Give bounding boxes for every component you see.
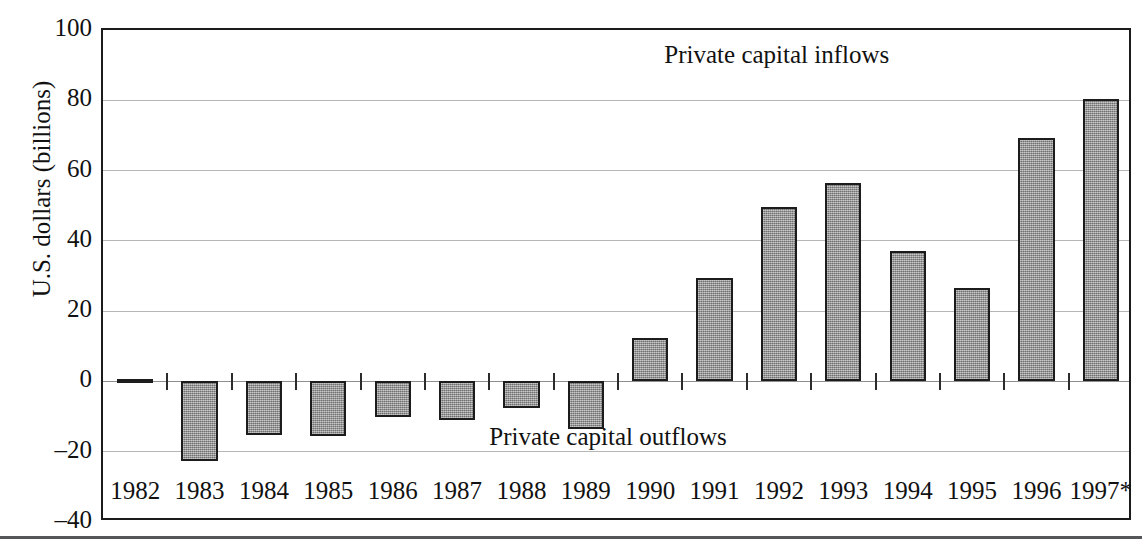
x-tick-mark-1995 (939, 373, 941, 390)
bar-1989 (568, 381, 604, 428)
x-tick-label-1988: 1988 (489, 478, 553, 503)
y-tick-label-40: 40 (14, 226, 92, 251)
x-tick-label-1994: 1994 (876, 478, 940, 503)
x-tick-label-1997*: 1997* (1069, 478, 1133, 503)
bar-1986 (375, 381, 411, 416)
x-tick-label-1991: 1991 (682, 478, 746, 503)
y-tick-label-20: 20 (14, 296, 92, 321)
y-tick-label--40: –40 (14, 507, 92, 532)
x-tick-label-1990: 1990 (618, 478, 682, 503)
bar-1988 (503, 381, 539, 407)
bar-1991 (696, 278, 732, 381)
x-tick-mark-1983 (166, 373, 168, 390)
x-tick-mark-1989 (553, 373, 555, 390)
y-tick-label-0: 0 (14, 366, 92, 391)
y-tick-label-80: 80 (14, 85, 92, 110)
x-tick-mark-1984 (231, 373, 233, 390)
x-tick-mark-1987 (424, 373, 426, 390)
x-tick-label-1996: 1996 (1004, 478, 1068, 503)
bar-1985 (310, 381, 346, 435)
y-axis-tick-labels: 100806040200–20–40 (12, 0, 92, 549)
x-tick-label-1985: 1985 (296, 478, 360, 503)
x-tick-mark-1994 (875, 373, 877, 390)
annotation-inflows: Private capital inflows (664, 42, 889, 67)
plot-area: 1982198319841985198619871988198919901991… (101, 28, 1131, 520)
x-tick-label-1986: 1986 (361, 478, 425, 503)
x-tick-mark-1986 (360, 373, 362, 390)
x-tick-label-1984: 1984 (232, 478, 296, 503)
gridline-80 (103, 100, 1129, 101)
x-tick-label-1983: 1983 (167, 478, 231, 503)
gridline-40 (103, 240, 1129, 241)
x-tick-mark-1993 (810, 373, 812, 390)
x-tick-mark-1996 (1003, 373, 1005, 390)
plot-inner: 1982198319841985198619871988198919901991… (103, 30, 1129, 518)
x-tick-mark-1997* (1068, 373, 1070, 390)
chart-page: U.S. dollars (billions) 100806040200–20–… (0, 0, 1142, 549)
bar-1987 (439, 381, 475, 420)
y-tick-label-100: 100 (14, 15, 92, 40)
x-tick-label-1989: 1989 (554, 478, 618, 503)
x-tick-mark-1985 (295, 373, 297, 390)
bar-1990 (632, 338, 668, 381)
annotation-outflows: Private capital outflows (489, 424, 726, 449)
y-tick-label-60: 60 (14, 156, 92, 181)
y-tick-label--20: –20 (14, 437, 92, 462)
bar-1984 (246, 381, 282, 435)
x-tick-mark-1992 (746, 373, 748, 390)
gridline-60 (103, 170, 1129, 171)
bar-1993 (825, 183, 861, 382)
x-tick-label-1995: 1995 (940, 478, 1004, 503)
bottom-divider-rule (0, 536, 1142, 539)
bar-1997* (1083, 99, 1119, 382)
x-tick-mark-1990 (617, 373, 619, 390)
bar-1983 (181, 381, 217, 460)
x-tick-label-1992: 1992 (747, 478, 811, 503)
x-tick-mark-1988 (488, 373, 490, 390)
gridline--20 (103, 451, 1129, 452)
x-tick-label-1982: 1982 (103, 478, 167, 503)
bar-1992 (761, 207, 797, 381)
bar-1996 (1018, 138, 1054, 382)
x-tick-label-1993: 1993 (811, 478, 875, 503)
bar-1994 (890, 251, 926, 381)
x-tick-label-1987: 1987 (425, 478, 489, 503)
bar-1982 (117, 379, 153, 383)
x-tick-mark-1991 (681, 373, 683, 390)
bar-1995 (954, 288, 990, 381)
